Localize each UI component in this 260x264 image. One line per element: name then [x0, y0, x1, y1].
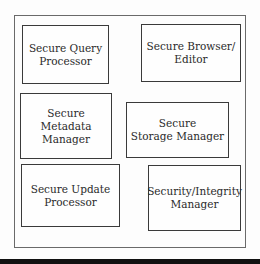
security-integrity-manager-box: Security/Integrity Manager [148, 165, 241, 231]
secure-metadata-manager-box: Secure Metadata Manager [20, 93, 112, 159]
secure-metadata-manager-label: Secure Metadata Manager [21, 107, 111, 146]
secure-browser-editor-label: Secure Browser/ Editor [147, 40, 236, 66]
secure-update-processor-box: Secure Update Processor [21, 164, 120, 227]
security-integrity-manager-label: Security/Integrity Manager [147, 185, 242, 211]
secure-update-processor-label: Secure Update Processor [31, 183, 111, 209]
bottom-border-bar [0, 259, 260, 264]
secure-storage-manager-box: Secure Storage Manager [126, 102, 229, 158]
secure-storage-manager-label: Secure Storage Manager [131, 117, 224, 143]
secure-browser-editor-box: Secure Browser/ Editor [141, 24, 241, 82]
secure-query-processor-label: Secure Query Processor [29, 42, 102, 68]
secure-query-processor-box: Secure Query Processor [22, 25, 109, 84]
